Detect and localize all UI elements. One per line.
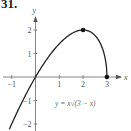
function-plot: −1123 −2−112 x y y = x√(3 − x) bbox=[0, 0, 131, 131]
maximum-point bbox=[81, 28, 86, 33]
y-tick-label: 1 bbox=[28, 50, 32, 59]
function-label: y = x√(3 − x) bbox=[54, 99, 96, 108]
y-axis-label: y bbox=[32, 6, 37, 15]
x-tick-label: −1 bbox=[7, 80, 16, 89]
x-tick-label: 1 bbox=[57, 80, 61, 89]
y-tick-label: −2 bbox=[23, 120, 32, 129]
x-tick-label: 3 bbox=[105, 80, 109, 89]
y-tick-label: 2 bbox=[28, 26, 32, 35]
x-axis-label: x bbox=[123, 73, 128, 82]
endpoint-point bbox=[105, 75, 110, 80]
x-tick-label: 2 bbox=[81, 80, 85, 89]
